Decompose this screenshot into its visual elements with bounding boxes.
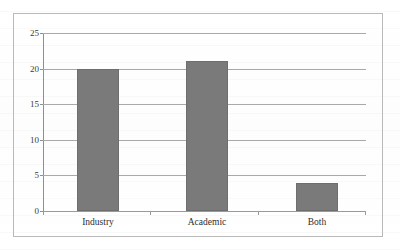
x-label-industry: Industry [53,217,143,228]
y-tick-label-5: 5 [17,171,39,180]
x-tick-mark-left [43,211,44,215]
y-tick-label-15: 15 [17,100,39,109]
x-tick-mark-1 [150,211,151,215]
y-tick-label-0: 0 [17,207,39,216]
y-tick-label-20: 20 [17,65,39,74]
y-tick-label-10: 10 [17,136,39,145]
plot-area [43,33,366,211]
x-tick-mark-2 [258,211,259,215]
y-axis-tick-labels: 25 20 15 10 5 0 [14,33,39,211]
y-tick-label-25: 25 [17,29,39,38]
x-label-both: Both [272,217,362,228]
bar-academic[interactable] [186,61,228,211]
bar-industry[interactable] [77,69,119,211]
gridline-25 [43,33,366,34]
gridline-baseline-0 [43,211,366,212]
x-tick-mark-right [365,211,366,215]
x-label-academic: Academic [162,217,252,228]
chart-figure-frame: 25 20 15 10 5 0 Industry Academic Both [13,13,383,237]
bar-both[interactable] [296,183,338,211]
